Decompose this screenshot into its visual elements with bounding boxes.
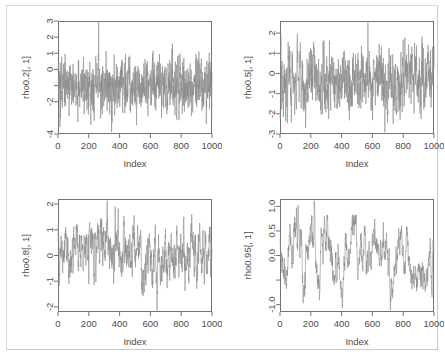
y-tick-label: -2 [44, 303, 55, 311]
y-tick-label: -3 [266, 130, 277, 138]
x-tick-label: 0 [277, 318, 282, 329]
y-tick-label: -1 [44, 277, 55, 285]
panel-grid: 02004006008001000-4-20123Indexrho0.2[, 1… [0, 0, 445, 357]
figure-canvas: 02004006008001000-4-20123Indexrho0.2[, 1… [0, 0, 445, 357]
y-tick-label: 1.0 [266, 200, 277, 213]
plot-svg: 02004006008001000-2-1012Indexrho0.8[, 1] [0, 178, 222, 356]
x-tick-label: 1000 [201, 140, 222, 151]
y-tick-label: -4 [44, 130, 55, 138]
x-tick-label: 800 [173, 318, 189, 329]
x-tick-label: 800 [395, 140, 411, 151]
series-line [58, 22, 212, 132]
panel-bottom-right: 02004006008001000-1.00.00.51.0Indexrho0.… [222, 178, 444, 356]
y-tick-label: 0.0 [266, 249, 277, 262]
x-tick-label: 600 [142, 140, 158, 151]
x-tick-label: 200 [81, 140, 97, 151]
x-tick-label: 600 [364, 318, 380, 329]
y-tick-label: 1 [44, 227, 55, 232]
panel-top-right: 02004006008001000-3-2-1012Indexrho0.5[, … [222, 0, 444, 178]
panel-top-left: 02004006008001000-4-20123Indexrho0.2[, 1… [0, 0, 222, 178]
x-tick-label: 400 [334, 140, 350, 151]
y-tick-label: 0 [44, 67, 55, 72]
y-axis-title: rho0.2[, 1] [20, 56, 31, 99]
x-tick-label: 800 [395, 318, 411, 329]
series-line [280, 23, 434, 133]
y-tick-label: -2 [44, 97, 55, 105]
x-tick-label: 400 [334, 318, 350, 329]
series-line [280, 201, 434, 311]
x-tick-label: 1000 [423, 318, 444, 329]
y-tick-label: 0.5 [266, 224, 277, 237]
x-tick-label: 200 [81, 318, 97, 329]
y-tick-label: 1 [44, 51, 55, 56]
y-tick-label: 2 [44, 34, 55, 39]
y-tick-label: 0 [266, 71, 277, 76]
x-tick-label: 400 [112, 140, 128, 151]
x-tick-label: 600 [364, 140, 380, 151]
x-axis-title: Index [123, 158, 146, 169]
x-axis-title: Index [345, 158, 368, 169]
x-tick-label: 400 [112, 318, 128, 329]
series-line [58, 201, 212, 311]
y-axis-title: rho0.5[, 1] [242, 56, 253, 99]
x-axis-title: Index [123, 336, 146, 347]
x-tick-label: 200 [303, 318, 319, 329]
x-tick-label: 600 [142, 318, 158, 329]
plot-svg: 02004006008001000-1.00.00.51.0Indexrho0.… [222, 178, 444, 356]
x-tick-label: 800 [173, 140, 189, 151]
plot-svg: 02004006008001000-3-2-1012Indexrho0.5[, … [222, 0, 444, 178]
x-tick-label: 0 [55, 140, 60, 151]
x-tick-label: 200 [303, 140, 319, 151]
x-tick-label: 0 [277, 140, 282, 151]
panel-bottom-left: 02004006008001000-2-1012Indexrho0.8[, 1] [0, 178, 222, 356]
y-tick-label: 0 [44, 253, 55, 258]
y-axis-title: rho0.8[, 1] [20, 234, 31, 277]
y-tick-label: -1 [266, 89, 277, 97]
y-axis-title: rho0.95[, 1] [242, 231, 253, 279]
y-tick-label: 2 [44, 201, 55, 206]
y-tick-label: 3 [44, 18, 55, 23]
y-tick-label: -2 [266, 110, 277, 118]
x-tick-label: 0 [55, 318, 60, 329]
x-tick-label: 1000 [201, 318, 222, 329]
y-tick-label: -1.0 [266, 296, 277, 312]
x-axis-title: Index [345, 336, 368, 347]
y-tick-label: 2 [266, 30, 277, 35]
y-tick-label: 1 [266, 51, 277, 56]
x-tick-label: 1000 [423, 140, 444, 151]
plot-svg: 02004006008001000-4-20123Indexrho0.2[, 1… [0, 0, 222, 178]
